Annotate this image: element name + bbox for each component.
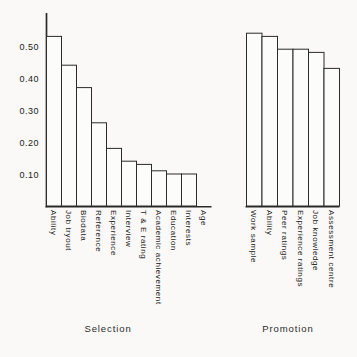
bar-selection-ability (47, 36, 62, 206)
y-tick-label-0-10: 0.10 (19, 170, 39, 180)
x-group-label-selection: Selection (53, 323, 163, 334)
bar-label-work-sample: Work sample (249, 210, 258, 263)
bar-promotion-ability (262, 36, 278, 206)
x-group-label-promotion: Promotion (233, 323, 343, 334)
bar-promotion-experience-ratings (293, 49, 309, 206)
bar-label-ability: Ability (49, 210, 58, 236)
bar-label-assessment-centre: Assessment centre (327, 210, 336, 288)
bar-selection-academic-achievement (152, 171, 167, 206)
bar-label-experience: Experience (109, 210, 118, 256)
bar-selection-experience (107, 148, 122, 206)
bar-label-academic-achievement: Academic achievement (154, 210, 163, 305)
bar-selection-interests (182, 174, 197, 206)
bar-selection-interview (122, 161, 137, 206)
bar-selection-reference (92, 123, 107, 206)
bar-label-reference: Reference (94, 210, 103, 252)
bar-selection-t-e-rating (137, 164, 152, 206)
validity-coefficients-figure: 0.500.400.300.200.10AbilityJob tryoutBio… (0, 0, 357, 357)
bar-label-peer-ratings: Peer ratings (280, 210, 289, 260)
bar-label-age: Age (199, 210, 208, 226)
bar-label-interview: Interview (124, 210, 133, 247)
bar-label-ability: Ability (265, 210, 274, 236)
bar-label-biodata: Biodata (79, 210, 88, 241)
bar-selection-job-tryout (62, 65, 77, 206)
bar-selection-education (167, 174, 182, 206)
y-tick-label-0-30: 0.30 (19, 106, 39, 116)
bar-label-interests: Interests (184, 210, 193, 246)
y-tick-label-0-50: 0.50 (19, 42, 39, 52)
bar-chart-canvas: 0.500.400.300.200.10AbilityJob tryoutBio… (0, 0, 357, 357)
bar-promotion-peer-ratings (278, 49, 294, 206)
bar-selection-biodata (77, 88, 92, 206)
bar-label-job-knowledge: Job knowledge (311, 210, 320, 271)
bar-label-job-tryout: Job tryout (64, 210, 73, 251)
bar-label-experience-ratings: Experience ratings (296, 210, 305, 287)
y-tick-label-0-40: 0.40 (19, 74, 39, 84)
y-tick-label-0-20: 0.20 (19, 138, 39, 148)
bar-label-t-e-rating: T & E rating (139, 210, 148, 259)
bar-promotion-work-sample (247, 33, 263, 206)
bar-promotion-assessment-centre (324, 68, 340, 206)
bar-label-education: Education (169, 210, 178, 251)
bar-promotion-job-knowledge (309, 52, 325, 206)
